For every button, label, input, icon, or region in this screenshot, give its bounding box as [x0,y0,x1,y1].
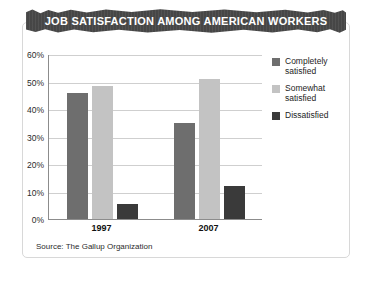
legend-item: Somewhat satisfied [272,83,356,103]
bar-group [67,55,138,219]
legend-label: Dissatisfied [285,110,328,120]
y-axis-tick-label: 50% [10,78,44,88]
bar [67,93,88,220]
plot-wrapper: 19972007 [48,55,262,220]
title-banner: JOB SATISFACTION AMONG AMERICAN WORKERS [26,9,346,33]
bar-group [174,55,245,219]
x-axis-category-label: 2007 [155,223,262,233]
bar [92,86,113,219]
legend-item: Dissatisfied [272,110,356,120]
legend-swatch-icon [272,112,280,120]
bar [174,123,195,219]
legend-swatch-icon [272,58,280,66]
legend-item: Completely satisfied [272,56,356,76]
chart-legend: Completely satisfiedSomewhat satisfiedDi… [272,56,356,127]
y-axis-tick-labels: 0%10%20%30%40%50%60% [8,55,44,220]
x-axis-category-label: 1997 [48,223,155,233]
plot-area [48,55,262,220]
chart-title: JOB SATISFACTION AMONG AMERICAN WORKERS [26,15,346,27]
legend-swatch-icon [272,85,280,93]
bar [224,186,245,219]
y-axis-tick-label: 40% [10,105,44,115]
y-axis-tick-label: 60% [10,50,44,60]
legend-label: Somewhat satisfied [285,83,325,103]
y-axis-tick-label: 20% [10,160,44,170]
y-axis-tick-label: 10% [10,188,44,198]
y-axis-tick-label: 0% [10,215,44,225]
bar [199,79,220,219]
source-note: Source: The Gallup Organization [36,242,152,251]
bar [117,204,138,219]
y-axis-tick-label: 30% [10,133,44,143]
legend-label: Completely satisfied [285,56,328,76]
